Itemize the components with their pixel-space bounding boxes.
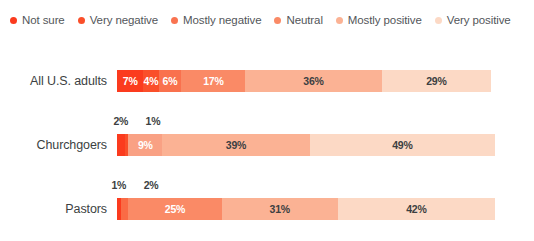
bar-segment-value-label: 4% <box>144 76 159 87</box>
bar-segment[interactable]: 42% <box>338 198 495 220</box>
bar-segment[interactable]: 49% <box>310 134 495 156</box>
legend-item[interactable]: Not sure <box>10 15 65 27</box>
legend-item-label: Very positive <box>447 15 511 27</box>
legend-item[interactable]: Very negative <box>78 15 158 27</box>
segment-callout-label: 2% <box>113 114 128 128</box>
segment-callout-group: 2%1% <box>0 114 534 128</box>
bar-segment-value-label: 39% <box>226 140 246 151</box>
legend-swatch-dot-icon <box>171 17 178 24</box>
legend-swatch-dot-icon <box>336 17 343 24</box>
bar-segment[interactable] <box>121 198 128 220</box>
chart-row: Pastors25%31%42% <box>0 198 534 220</box>
segment-callout-group: 1%2% <box>0 178 534 192</box>
legend-item-label: Very negative <box>90 15 158 27</box>
bar-segment-value-label: 9% <box>138 140 153 151</box>
row-category-label: Churchgoers <box>0 134 107 156</box>
segment-callout-label: 1% <box>146 114 161 128</box>
bar-segment[interactable]: 17% <box>181 70 245 92</box>
bar-segment-value-label: 31% <box>270 204 290 215</box>
bar-segment[interactable]: 31% <box>222 198 338 220</box>
legend-item[interactable]: Mostly negative <box>171 15 261 27</box>
legend-item-label: Mostly negative <box>183 15 261 27</box>
bar-segment-value-label: 42% <box>406 204 426 215</box>
segment-callout-label: 1% <box>111 178 126 192</box>
stacked-bar: 25%31%42% <box>117 198 495 220</box>
legend-item-label: Mostly positive <box>348 15 422 27</box>
bar-segment[interactable]: 29% <box>382 70 492 92</box>
legend-swatch-dot-icon <box>78 17 85 24</box>
bar-segment-value-label: 29% <box>426 76 446 87</box>
legend-item[interactable]: Mostly positive <box>336 15 422 27</box>
legend-item[interactable]: Very positive <box>435 15 511 27</box>
legend-item[interactable]: Neutral <box>274 15 322 27</box>
bar-segment[interactable]: 6% <box>159 70 182 92</box>
legend-item-label: Neutral <box>286 15 322 27</box>
bar-segment-value-label: 25% <box>165 204 185 215</box>
bar-segment-value-label: 36% <box>303 76 323 87</box>
bar-segment[interactable]: 9% <box>128 134 162 156</box>
legend-item-label: Not sure <box>22 15 65 27</box>
chart-row: Churchgoers9%39%49% <box>0 134 534 156</box>
bar-segment-value-label: 7% <box>123 76 138 87</box>
legend-swatch-dot-icon <box>435 17 442 24</box>
bar-segment-value-label: 6% <box>163 76 178 87</box>
bar-segment[interactable]: 36% <box>245 70 381 92</box>
bar-segment[interactable]: 25% <box>128 198 222 220</box>
chart-row: All U.S. adults7%4%6%17%36%29% <box>0 70 534 92</box>
stacked-bar-chart: All U.S. adults7%4%6%17%36%29%2%1%Church… <box>0 48 534 241</box>
bar-segment[interactable] <box>117 134 125 156</box>
bar-segment-value-label: 17% <box>203 76 223 87</box>
row-category-label: All U.S. adults <box>0 70 107 92</box>
bar-segment[interactable]: 39% <box>162 134 309 156</box>
stacked-bar: 7%4%6%17%36%29% <box>117 70 495 92</box>
segment-callout-label: 2% <box>144 178 159 192</box>
stacked-bar: 9%39%49% <box>117 134 495 156</box>
bar-segment[interactable]: 4% <box>143 70 158 92</box>
row-category-label: Pastors <box>0 198 107 220</box>
bar-segment-value-label: 49% <box>392 140 412 151</box>
legend-swatch-dot-icon <box>10 17 17 24</box>
legend-swatch-dot-icon <box>274 17 281 24</box>
chart-legend: Not sureVery negativeMostly negativeNeut… <box>10 15 530 27</box>
bar-segment[interactable]: 7% <box>117 70 143 92</box>
